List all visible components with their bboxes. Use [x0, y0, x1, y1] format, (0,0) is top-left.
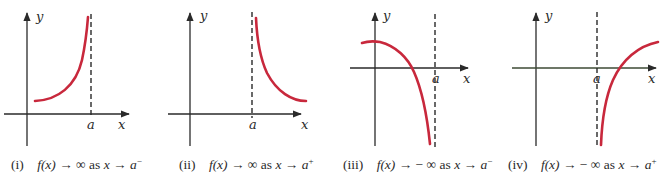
arrow-symbol: → — [59, 157, 73, 172]
caption-iv: (iv) f(x) → − ∞ as x → a+ — [508, 156, 657, 173]
curve — [256, 18, 306, 101]
x-axis-label: x — [118, 117, 126, 132]
caption-limit: − ∞ — [416, 157, 437, 172]
caption-function: f(x) — [377, 157, 396, 172]
curve — [601, 42, 658, 145]
caption-side: + — [308, 156, 313, 166]
caption-side: − — [137, 156, 142, 166]
caption-numeral: (i) — [11, 157, 24, 172]
caption-numeral: (iii) — [343, 157, 363, 172]
asymptote-label: a — [432, 71, 440, 86]
caption-i: (i) f(x) → ∞ as x → a− — [11, 156, 142, 173]
y-axis-label: y — [199, 8, 208, 23]
caption-numeral: (iv) — [508, 157, 528, 172]
arrow-symbol: → — [563, 157, 577, 172]
arrow-symbol: → — [113, 157, 127, 172]
y-axis-label: y — [544, 8, 553, 23]
y-axis-label: y — [382, 8, 391, 23]
caption-var: x — [275, 157, 281, 172]
caption-side: + — [651, 156, 656, 166]
arrow-symbol: → — [399, 157, 413, 172]
x-axis-label: x — [301, 117, 309, 132]
caption-var: x — [454, 157, 460, 172]
panel-iv: y a x — [512, 8, 658, 148]
caption-limit: − ∞ — [580, 157, 601, 172]
caption-as: as — [604, 157, 615, 172]
caption-side: − — [487, 156, 492, 166]
caption-function: f(x) — [209, 157, 228, 172]
arrow-symbol: → — [231, 157, 245, 172]
caption-limit: ∞ — [248, 157, 258, 172]
caption-as: as — [89, 157, 100, 172]
arrow-symbol: → — [285, 157, 299, 172]
y-axis-label: y — [35, 9, 44, 24]
caption-function: f(x) — [37, 157, 56, 172]
asymptote-label: a — [249, 117, 257, 132]
caption-var: x — [618, 157, 624, 172]
caption-as: as — [440, 157, 451, 172]
curve — [35, 17, 88, 101]
caption-function: f(x) — [541, 157, 560, 172]
arrow-symbol: → — [628, 157, 642, 172]
figure-canvas: y a x y a x y a x y a x — [0, 0, 664, 178]
x-axis-label: x — [648, 71, 656, 86]
caption-numeral: (ii) — [179, 157, 196, 172]
panel-iii: y a x — [350, 8, 471, 148]
panel-i: y a x — [4, 9, 129, 146]
caption-limit: ∞ — [76, 157, 86, 172]
arrow-symbol: → — [464, 157, 478, 172]
caption-ii: (ii) f(x) → ∞ as x → a+ — [179, 156, 314, 173]
caption-iii: (iii) f(x) → − ∞ as x → a− — [343, 156, 492, 173]
panel-ii: y a x — [168, 8, 309, 146]
curve — [362, 41, 430, 144]
x-axis-label: x — [463, 71, 471, 86]
caption-var: x — [104, 157, 110, 172]
caption-a: a — [130, 157, 137, 172]
caption-as: as — [261, 157, 272, 172]
asymptote-label: a — [593, 71, 601, 86]
asymptote-label: a — [87, 117, 95, 132]
